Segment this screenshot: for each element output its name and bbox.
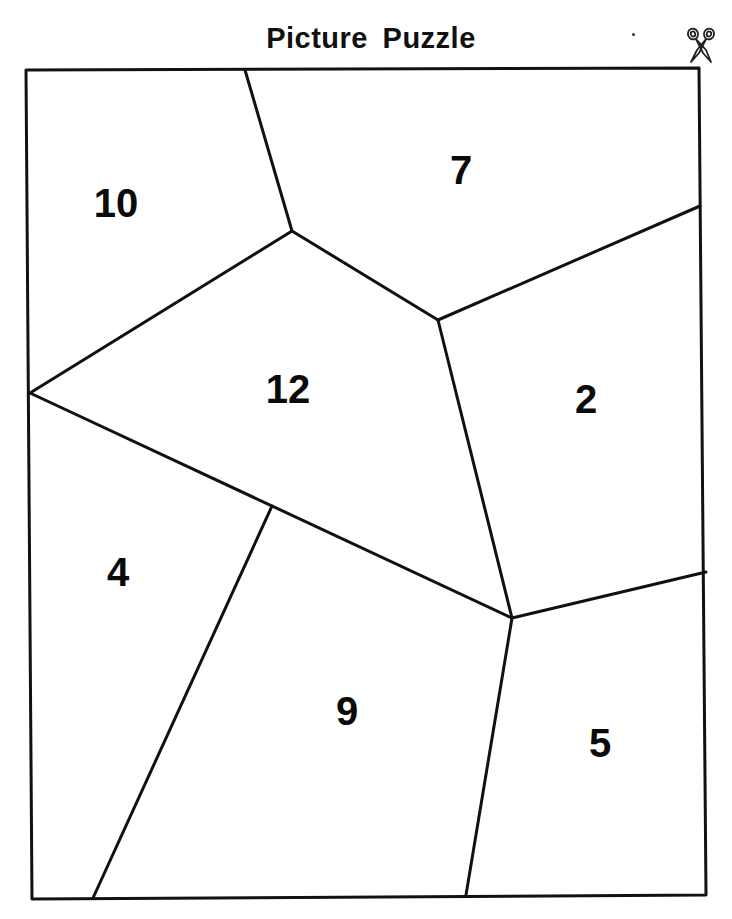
piece-number-12: 12 <box>266 369 311 409</box>
puzzle-board <box>0 0 732 919</box>
piece-number-2: 2 <box>575 379 597 419</box>
piece-number-9: 9 <box>336 691 358 731</box>
piece-number-5: 5 <box>589 723 611 763</box>
piece-number-4: 4 <box>107 552 129 592</box>
piece-number-10: 10 <box>94 183 139 223</box>
piece-number-7: 7 <box>450 150 472 190</box>
